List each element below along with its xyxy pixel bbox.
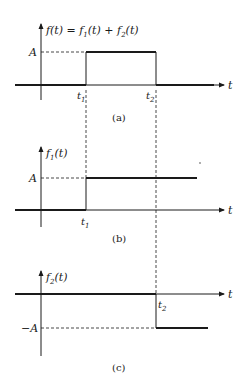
panel-b-tick-t1: t1 <box>81 216 90 230</box>
panel-a: A f(t) = f1(t) + f2(t) t t1 t2 (a) <box>15 24 233 123</box>
panel-c-y-label: f2(t) <box>45 271 68 286</box>
panel-c-x-label: t <box>228 288 233 301</box>
panel-b-caption: (b) <box>112 233 126 244</box>
panel-a-tick-t1: t1 <box>77 90 86 104</box>
panel-c-level-label: −A <box>21 322 38 335</box>
panel-b-x-label: t <box>228 204 233 217</box>
panel-b-level-label: A <box>28 172 37 185</box>
panel-c-caption: (c) <box>112 362 126 373</box>
panel-a-caption: (a) <box>112 112 126 123</box>
panel-a-y-label: f(t) = f1(t) + f2(t) <box>45 24 139 39</box>
panel-a-tick-t2: t2 <box>146 90 155 104</box>
panel-c-tick-t2: t2 <box>158 299 167 313</box>
panel-a-level-label: A <box>28 46 37 59</box>
signal-decomposition-diagram: A f(t) = f1(t) + f2(t) t t1 t2 (a) A f1(… <box>0 0 242 392</box>
stray-mark <box>199 162 201 164</box>
panel-c: −A f2(t) t t2 (c) <box>15 271 233 373</box>
panel-a-x-label: t <box>228 79 233 92</box>
panel-b-y-label: f1(t) <box>45 147 68 162</box>
panel-b: A f1(t) t t1 (b) <box>15 147 233 244</box>
